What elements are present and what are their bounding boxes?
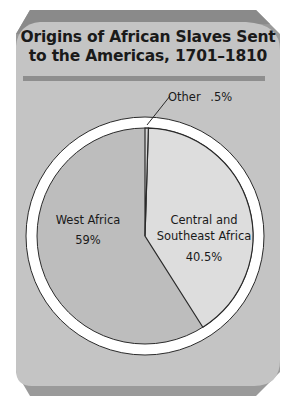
label-other-pct: .5% xyxy=(210,90,232,104)
label-other: Other .5% xyxy=(168,90,232,105)
label-west-africa-name: West Africa xyxy=(40,213,136,228)
label-west-africa: West Africa 59% xyxy=(40,213,136,248)
label-central-southeast-africa: Central and Southeast Africa 40.5% xyxy=(148,212,260,265)
pie-chart xyxy=(0,0,286,404)
label-west-africa-pct: 59% xyxy=(40,233,136,248)
label-central-name-line2: Southeast Africa xyxy=(148,228,260,244)
label-other-name: Other xyxy=(168,90,201,104)
label-central-name-line1: Central and xyxy=(148,212,260,228)
chart-card: Origins of African Slaves Sent to the Am… xyxy=(0,0,286,404)
label-central-pct: 40.5% xyxy=(148,249,260,265)
